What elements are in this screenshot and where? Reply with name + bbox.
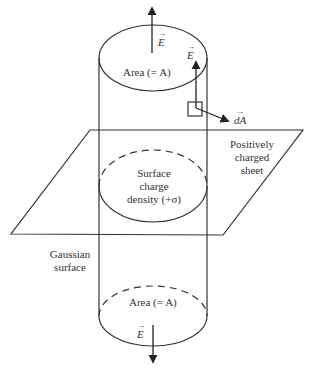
bottom-area-label: Area (= A) [129, 296, 177, 309]
surface-charge-label: Surface charge density (+σ) [124, 167, 184, 206]
charged-sheet-label: Positively charged sheet [222, 138, 282, 177]
top-e-label: →E [158, 36, 165, 48]
gaussian-surface-label: Gaussian surface [42, 248, 98, 274]
side-e-label: →E [187, 49, 194, 61]
bottom-e-label: →E [137, 328, 144, 340]
diagram-canvas: →E →E →dA →E Area (= A) Area (= A) Surfa… [0, 0, 310, 371]
top-area-label: Area (= A) [123, 66, 171, 79]
da-label: →dA [234, 114, 246, 126]
area-vector-arrow [196, 108, 228, 121]
